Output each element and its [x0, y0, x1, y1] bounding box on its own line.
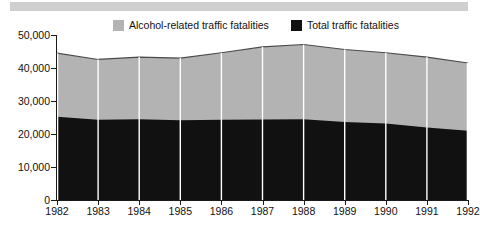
y-axis-tick [51, 101, 56, 102]
x-axis-tick [139, 200, 140, 205]
y-axis-tick-label: 40,000 [18, 62, 50, 74]
y-axis-tick [51, 167, 56, 168]
x-axis-tick-label: 1989 [333, 205, 356, 217]
x-axis-tick-label: 1990 [374, 205, 397, 217]
chart-legend: Alcohol-related traffic fatalities Total… [113, 20, 399, 31]
legend-swatch-alcohol [113, 20, 124, 31]
x-axis-tick [468, 200, 469, 205]
y-axis-tick-label: 20,000 [18, 128, 50, 140]
x-axis-tick-label: 1982 [45, 205, 68, 217]
legend-swatch-total [291, 20, 302, 31]
legend-label-total: Total traffic fatalities [307, 20, 399, 31]
y-axis-tick [51, 35, 56, 36]
area-chart-svg [57, 35, 468, 200]
x-axis-tick [180, 200, 181, 205]
x-axis-tick-label: 1984 [128, 205, 151, 217]
x-axis-line [56, 200, 468, 201]
x-axis-tick [386, 200, 387, 205]
x-axis-tick [345, 200, 346, 205]
x-axis-tick [57, 200, 58, 205]
x-axis-tick-label: 1985 [169, 205, 192, 217]
x-axis-tick [427, 200, 428, 205]
y-axis-tick-label: 10,000 [18, 161, 50, 173]
x-axis-tick-label: 1992 [456, 205, 479, 217]
y-axis-tick-label: 30,000 [18, 95, 50, 107]
x-axis-tick-label: 1988 [292, 205, 315, 217]
y-axis-tick [51, 200, 56, 201]
x-axis-tick [304, 200, 305, 205]
x-axis-tick-label: 1991 [415, 205, 438, 217]
legend-label-alcohol: Alcohol-related traffic fatalities [129, 20, 269, 31]
x-axis-tick [221, 200, 222, 205]
y-axis-tick-label: 50,000 [18, 29, 50, 41]
legend-item-total: Total traffic fatalities [291, 20, 399, 31]
x-axis-tick [98, 200, 99, 205]
plot-area [57, 35, 468, 200]
y-axis-tick [51, 68, 56, 69]
x-axis-tick-label: 1987 [251, 205, 274, 217]
x-axis-tick [263, 200, 264, 205]
scan-artifact-strip [10, 2, 468, 11]
x-axis-tick-label: 1983 [86, 205, 109, 217]
x-axis-tick-label: 1986 [210, 205, 233, 217]
legend-item-alcohol: Alcohol-related traffic fatalities [113, 20, 269, 31]
y-axis-labels: 010,00020,00030,00040,00050,000 [0, 0, 50, 228]
y-axis-tick [51, 134, 56, 135]
